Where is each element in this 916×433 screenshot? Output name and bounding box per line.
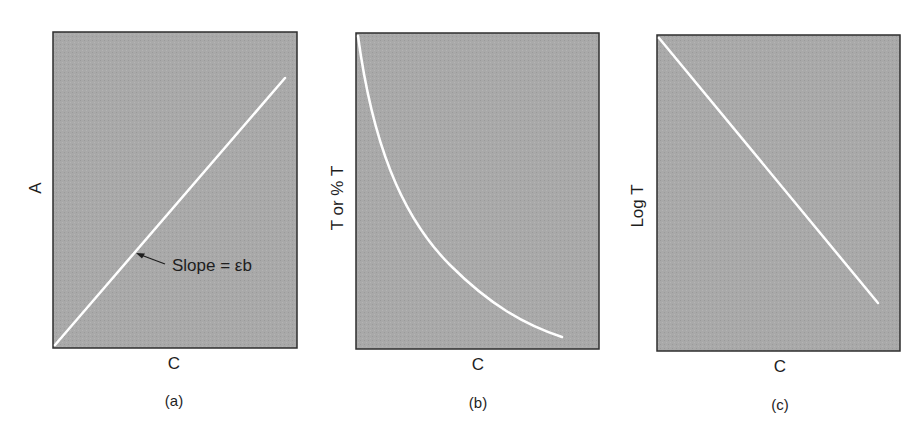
plot-area-a xyxy=(53,32,297,348)
y-axis-label-a: A xyxy=(26,182,46,193)
x-axis-label-c: C xyxy=(774,357,786,377)
x-axis-label-b: C xyxy=(472,355,484,375)
slope-annotation: Slope = εb xyxy=(172,256,252,276)
caption-b: (b) xyxy=(469,394,487,411)
panel-a xyxy=(53,32,297,348)
plot-area-b xyxy=(356,33,599,349)
x-axis-label-a: C xyxy=(168,354,180,374)
panel-c xyxy=(657,35,900,351)
panel-b xyxy=(356,33,599,349)
y-axis-label-c: Log T xyxy=(628,184,648,227)
plot-area-c xyxy=(657,35,900,351)
y-axis-label-b: T or % T xyxy=(328,166,348,231)
caption-c: (c) xyxy=(771,396,789,413)
caption-a: (a) xyxy=(165,392,183,409)
